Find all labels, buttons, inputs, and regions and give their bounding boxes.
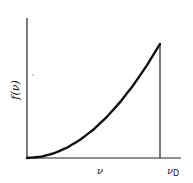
chart-canvas: f(ν) ν νD [0, 0, 193, 183]
stray-dot [32, 74, 34, 76]
y-axis-label: f(ν) [9, 80, 22, 100]
cutoff-label: νD [167, 165, 179, 178]
x-axis-label: ν [97, 165, 103, 176]
cutoff-label-sub: D [173, 169, 179, 178]
distribution-curve [27, 44, 160, 158]
